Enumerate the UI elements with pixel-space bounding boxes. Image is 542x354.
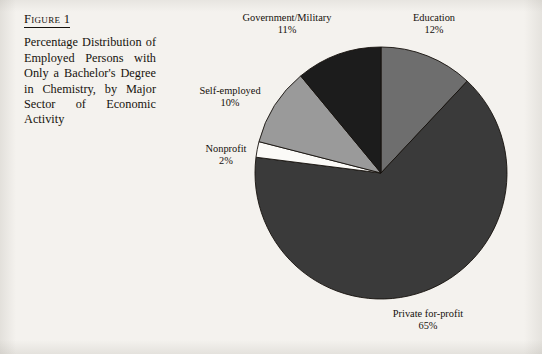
pie-slice-group: [255, 47, 507, 299]
pie-label-private-for-profit-percent: 65%: [368, 320, 488, 332]
pie-label-private-for-profit-name: Private for-profit: [393, 308, 463, 319]
figure-page: Figure 1 Percentage Distribution of Empl…: [0, 0, 542, 354]
pie-label-education-percent: 12%: [388, 24, 480, 36]
pie-label-self-employed-name: Self-employed: [199, 85, 260, 96]
pie-label-education: Education 12%: [388, 12, 480, 37]
figure-caption-text: Percentage Distribution of Employed Pers…: [24, 35, 156, 127]
pie-label-government-military: Government/Military 11%: [228, 12, 346, 37]
pie-label-self-employed: Self-employed 10%: [180, 85, 280, 110]
figure-caption-block: Figure 1 Percentage Distribution of Empl…: [24, 9, 156, 128]
pie-label-government-military-name: Government/Military: [243, 12, 332, 23]
pie-label-nonprofit-name: Nonprofit: [206, 143, 247, 154]
pie-label-nonprofit-percent: 2%: [182, 155, 270, 167]
pie-label-education-name: Education: [413, 12, 455, 23]
pie-label-government-military-percent: 11%: [228, 24, 346, 36]
pie-chart-svg: [160, 0, 542, 354]
pie-label-self-employed-percent: 10%: [180, 97, 280, 109]
figure-number-heading: Figure 1: [24, 12, 70, 28]
pie-chart: Government/Military 11% Education 12% Se…: [160, 0, 542, 354]
pie-label-private-for-profit: Private for-profit 65%: [368, 308, 488, 333]
pie-label-nonprofit: Nonprofit 2%: [182, 143, 270, 168]
